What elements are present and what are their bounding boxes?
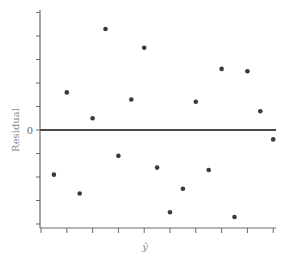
data-point (168, 210, 173, 215)
data-point (219, 67, 224, 72)
data-point (129, 97, 134, 102)
data-point (90, 116, 95, 121)
data-point (103, 27, 108, 32)
data-points (52, 27, 276, 220)
residual-plot: 0 Residual ŷ (0, 0, 283, 258)
x-axis-ticks (41, 228, 273, 233)
data-point (206, 168, 211, 173)
data-point (245, 69, 250, 74)
data-point (271, 137, 276, 142)
data-point (258, 109, 263, 114)
data-point (142, 45, 147, 50)
data-point (52, 172, 57, 177)
data-point (116, 154, 121, 159)
y-zero-tick-label: 0 (27, 125, 33, 136)
data-point (232, 215, 237, 220)
data-point (194, 100, 199, 105)
data-point (155, 165, 160, 170)
data-point (181, 186, 186, 191)
data-point (77, 191, 82, 196)
data-point (65, 90, 70, 95)
y-axis-label: Residual (10, 108, 21, 152)
x-axis-label: ŷ (141, 241, 148, 252)
